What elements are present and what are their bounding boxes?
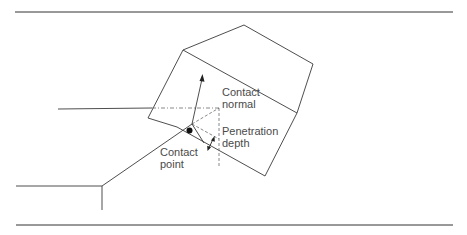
dashed-diagonal-lower [192, 124, 219, 139]
label-text: Contact [160, 146, 198, 158]
label-contact-normal: Contact normal [222, 86, 260, 110]
surface-plane-line [58, 108, 152, 109]
arrowhead-icon [211, 136, 215, 142]
label-text: point [160, 158, 198, 170]
contact-point-dot [187, 128, 193, 134]
contact-diagram [0, 0, 467, 235]
label-penetration-depth: Penetration depth [222, 125, 278, 149]
label-text: Penetration [222, 125, 278, 137]
dashed-diagonal-upper [192, 108, 219, 124]
contact-normal-arrow [192, 79, 202, 124]
arrowhead-icon [207, 146, 211, 151]
label-text: depth [222, 137, 278, 149]
contact-fan-segment [192, 124, 204, 143]
label-text: normal [222, 98, 260, 110]
label-text: Contact [222, 86, 260, 98]
arrowhead-icon [200, 74, 205, 82]
label-contact-point: Contact point [160, 146, 198, 170]
